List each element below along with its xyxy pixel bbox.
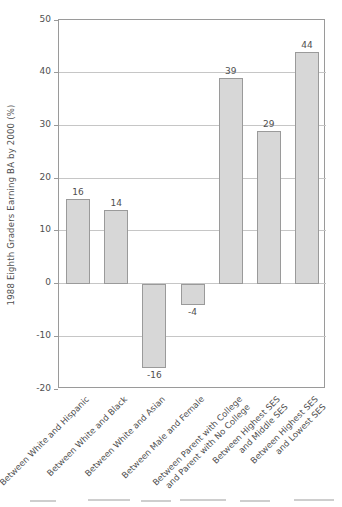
- bar-7: [295, 52, 319, 284]
- y-tick-label--20: -20: [19, 383, 51, 393]
- bar-value-label-5: 39: [216, 66, 246, 76]
- y-tick-label-40: 40: [19, 66, 51, 76]
- bar-4: [181, 284, 205, 305]
- bar-value-label-7: 44: [292, 40, 322, 50]
- cropped-text-fragment: [294, 499, 334, 501]
- y-tickmark-20: [54, 178, 58, 179]
- y-tickmark-50: [54, 20, 58, 21]
- cropped-text-fragment: [240, 500, 270, 502]
- bar-value-label-3: -16: [139, 370, 169, 380]
- bar-5: [219, 78, 243, 284]
- y-tick-label-0: 0: [19, 277, 51, 287]
- gridline-y-20: [59, 178, 326, 179]
- cropped-caption-remnant: [0, 497, 342, 507]
- bar-value-label-6: 29: [254, 119, 284, 129]
- bar-value-label-4: -4: [178, 307, 208, 317]
- y-tickmark-10: [54, 230, 58, 231]
- y-tickmark-0: [54, 283, 58, 284]
- gridline-y-30: [59, 125, 326, 126]
- bar-1: [66, 199, 90, 283]
- y-tick-label-50: 50: [19, 14, 51, 24]
- y-tickmark-30: [54, 125, 58, 126]
- bar-2: [104, 210, 128, 284]
- gridline-y-40: [59, 72, 326, 73]
- bar-3: [142, 284, 166, 368]
- cropped-text-fragment: [141, 500, 171, 502]
- y-tick-label-30: 30: [19, 119, 51, 129]
- y-tickmark-40: [54, 72, 58, 73]
- y-tick-label-20: 20: [19, 172, 51, 182]
- plot-area: 1614-16-4392944: [58, 19, 325, 388]
- bar-value-label-1: 16: [63, 187, 93, 197]
- cropped-text-fragment: [180, 499, 226, 501]
- bar-chart-figure: 1988 Eighth Graders Earning BA by 2000 (…: [0, 0, 342, 507]
- y-tick-label-10: 10: [19, 224, 51, 234]
- cropped-text-fragment: [30, 500, 56, 502]
- gridline-y--10: [59, 336, 326, 337]
- bar-value-label-2: 14: [101, 198, 131, 208]
- y-tickmark--10: [54, 336, 58, 337]
- cropped-text-fragment: [88, 499, 130, 501]
- gridline-y-10: [59, 230, 326, 231]
- y-tickmark--20: [54, 389, 58, 390]
- y-axis-title: 1988 Eighth Graders Earning BA by 2000 (…: [6, 105, 16, 306]
- bar-6: [257, 131, 281, 284]
- y-tick-label--10: -10: [19, 330, 51, 340]
